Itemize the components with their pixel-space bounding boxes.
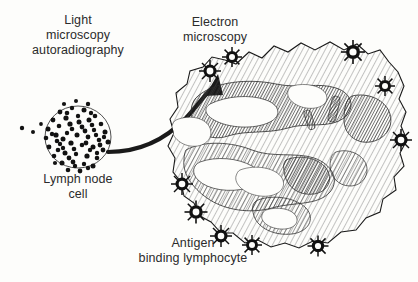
antigen-receptor-cluster xyxy=(341,40,365,64)
label-antigen-binding-lymphocyte: Antigen binding lymphocyte xyxy=(118,236,268,266)
antigen-receptor-cluster xyxy=(185,201,208,224)
label-light-microscopy: Light microscopy autoradiography xyxy=(8,13,148,57)
label-lymph-node-cell: Lymph node cell xyxy=(10,172,146,202)
antigen-receptor-cluster xyxy=(222,47,242,67)
antigen-receptor-cluster xyxy=(375,76,395,96)
antigen-receptor-cluster xyxy=(390,129,412,151)
label-electron-microscopy: Electron microscopy xyxy=(150,15,280,45)
antigen-receptor-cluster xyxy=(308,236,329,257)
antigen-receptor-cluster xyxy=(171,173,193,195)
lymph-node-cell xyxy=(20,99,111,173)
antigen-receptor-cluster xyxy=(199,60,221,82)
figure-panel: Light microscopy autoradiography Electro… xyxy=(0,0,418,282)
